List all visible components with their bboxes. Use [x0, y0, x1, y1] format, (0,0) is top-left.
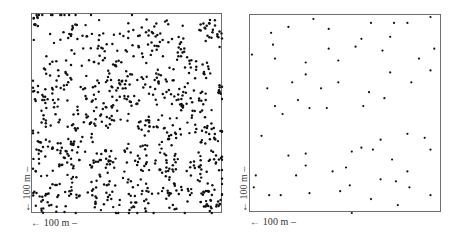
data-point	[184, 212, 186, 214]
data-point	[32, 194, 35, 197]
data-point	[98, 19, 100, 21]
data-point	[91, 99, 94, 102]
data-point	[424, 137, 426, 139]
data-point	[32, 168, 34, 170]
data-point	[37, 17, 39, 19]
data-point	[199, 155, 201, 157]
data-point	[59, 39, 61, 41]
data-point	[136, 212, 138, 214]
data-point	[210, 109, 212, 111]
data-point	[56, 196, 59, 199]
data-point	[206, 203, 209, 206]
data-point	[153, 44, 156, 47]
data-point	[372, 149, 374, 151]
data-point	[93, 61, 96, 64]
data-point	[128, 193, 131, 196]
data-point	[126, 50, 128, 52]
data-point	[85, 98, 88, 101]
random-plot-frame	[249, 14, 441, 212]
data-point	[180, 98, 183, 101]
data-point	[168, 176, 170, 178]
data-point	[140, 178, 142, 180]
data-point	[34, 100, 37, 103]
data-point	[54, 184, 57, 187]
data-point	[206, 125, 209, 128]
data-point	[46, 174, 48, 176]
data-point	[173, 182, 176, 185]
data-point	[178, 193, 181, 196]
data-point	[103, 183, 106, 186]
data-point	[71, 181, 73, 183]
data-point	[70, 49, 72, 51]
data-point	[92, 159, 95, 162]
data-point	[76, 127, 79, 130]
data-point	[191, 114, 193, 116]
data-point	[155, 72, 157, 74]
data-point	[126, 75, 129, 78]
data-point	[75, 212, 77, 214]
data-point	[133, 95, 136, 98]
data-point	[218, 46, 220, 48]
data-point	[104, 149, 107, 152]
data-point	[191, 101, 194, 104]
data-point	[418, 58, 420, 60]
data-point	[127, 22, 129, 24]
data-point	[174, 184, 177, 187]
data-point	[49, 33, 51, 35]
data-point	[157, 192, 159, 194]
data-point	[144, 207, 147, 210]
data-point	[47, 201, 49, 203]
data-point	[165, 197, 168, 200]
data-point	[191, 109, 194, 112]
data-point	[97, 45, 100, 48]
data-point	[113, 167, 115, 169]
data-point	[71, 149, 74, 152]
data-point	[120, 61, 123, 64]
data-point	[70, 64, 73, 67]
data-point	[59, 150, 62, 153]
data-point	[217, 205, 220, 208]
data-point	[204, 116, 207, 119]
data-point	[188, 72, 191, 75]
data-point	[38, 162, 40, 164]
data-point	[165, 159, 168, 162]
data-point	[128, 83, 131, 86]
data-point	[70, 189, 73, 192]
data-point	[71, 25, 74, 28]
data-point	[33, 17, 36, 20]
data-point	[206, 35, 209, 38]
data-point	[78, 159, 81, 162]
data-point	[155, 99, 157, 101]
data-point	[370, 198, 372, 200]
data-point	[194, 131, 197, 134]
data-point	[46, 98, 49, 101]
data-point	[172, 204, 175, 207]
data-point	[180, 186, 183, 189]
data-point	[161, 114, 163, 116]
data-point	[213, 158, 216, 161]
data-point	[97, 62, 100, 65]
data-point	[210, 207, 212, 209]
data-point	[205, 77, 208, 80]
data-point	[287, 155, 289, 157]
data-point	[41, 196, 44, 199]
data-point	[34, 24, 37, 27]
data-point	[57, 98, 59, 100]
data-point	[112, 63, 115, 66]
data-point	[113, 34, 115, 36]
data-point	[37, 85, 40, 88]
data-point	[109, 163, 111, 165]
data-point	[159, 41, 162, 44]
data-point	[193, 160, 196, 163]
data-point	[266, 87, 268, 89]
data-point	[51, 92, 53, 94]
data-point	[162, 55, 164, 57]
data-point	[41, 14, 43, 16]
data-point	[291, 81, 293, 83]
data-point	[89, 164, 92, 167]
data-point	[221, 155, 224, 158]
data-point	[102, 32, 104, 34]
data-point	[103, 203, 106, 206]
data-point	[107, 76, 109, 78]
data-point	[154, 162, 157, 165]
